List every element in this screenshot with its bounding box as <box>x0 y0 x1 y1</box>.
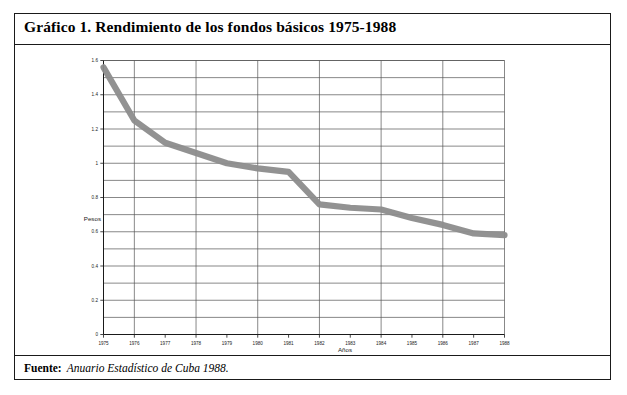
y-tick-label: 0.6 <box>92 229 99 234</box>
x-tick-label: 1978 <box>191 341 202 346</box>
x-tick-label: 1983 <box>345 341 356 346</box>
y-tick-label: 1.2 <box>92 127 99 132</box>
x-tick-label: 1980 <box>253 341 264 346</box>
x-tick-label: 1986 <box>438 341 449 346</box>
y-tick-label: 1.4 <box>92 92 99 97</box>
y-axis-title: Pesos <box>84 215 101 222</box>
x-axis-tick-labels: 1975197619771978197919801981198219831984… <box>98 341 510 346</box>
x-tick-label: 1977 <box>160 341 171 346</box>
y-tick-label: 0 <box>95 332 98 337</box>
x-tick-label: 1984 <box>376 341 387 346</box>
x-tick-label: 1981 <box>283 341 294 346</box>
y-tick-label: 1 <box>95 161 98 166</box>
y-tick-label: 0.4 <box>92 264 99 269</box>
x-tick-label: 1982 <box>314 341 325 346</box>
x-tick-label: 1988 <box>499 341 510 346</box>
x-tick-label: 1976 <box>129 341 140 346</box>
y-tick-label: 0.8 <box>92 195 99 200</box>
y-tick-label: 0.2 <box>92 298 99 303</box>
figure-page: Gráfico 1. Rendimiento de los fondos bás… <box>0 0 627 395</box>
line-chart-svg: 00.20.40.60.811.21.41.6 1975197619771978… <box>0 0 627 395</box>
x-axis-title: Años <box>338 346 352 353</box>
x-tick-label: 1979 <box>222 341 233 346</box>
y-tick-label: 1.6 <box>92 58 99 63</box>
chart-plot-area: 00.20.40.60.811.21.41.6 1975197619771978… <box>0 0 627 395</box>
data-series-line <box>104 67 505 235</box>
x-tick-label: 1985 <box>407 341 418 346</box>
x-tick-label: 1987 <box>469 341 480 346</box>
x-tick-label: 1975 <box>98 341 109 346</box>
y-axis-tick-labels: 00.20.40.60.811.21.41.6 <box>92 58 99 337</box>
